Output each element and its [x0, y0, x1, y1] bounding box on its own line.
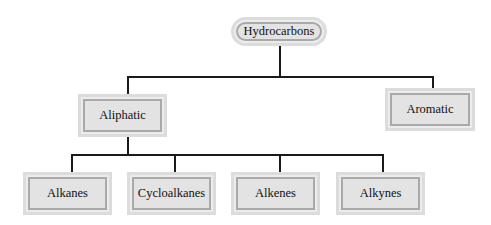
node-label: Alkenes: [255, 186, 296, 201]
node-label: Hydrocarbons: [244, 24, 315, 39]
node-label: Aromatic: [406, 102, 453, 117]
connector-root-down: [279, 44, 281, 77]
node-aromatic: Aromatic: [385, 88, 475, 131]
node-alkenes: Alkenes: [231, 172, 320, 215]
connector-to-alkanes: [71, 154, 73, 173]
connector-level1-horizontal: [127, 76, 434, 78]
node-label: Cycloalkanes: [138, 186, 205, 201]
node-label: Aliphatic: [99, 108, 146, 123]
connector-aliphatic-down: [127, 136, 129, 156]
connector-to-cycloalkanes: [174, 154, 176, 173]
node-label: Alkanes: [47, 186, 88, 201]
node-label: Alkynes: [360, 186, 402, 201]
node-alkanes: Alkanes: [23, 172, 112, 215]
connector-to-alkenes: [279, 154, 281, 173]
node-aliphatic: Aliphatic: [78, 94, 167, 137]
connector-to-alkynes: [382, 154, 384, 173]
connector-level2-horizontal: [71, 154, 384, 156]
node-hydrocarbons: Hydrocarbons: [231, 17, 327, 46]
node-alkynes: Alkynes: [336, 172, 425, 215]
node-cycloalkanes: Cycloalkanes: [127, 172, 216, 215]
connector-to-aliphatic: [127, 76, 129, 96]
